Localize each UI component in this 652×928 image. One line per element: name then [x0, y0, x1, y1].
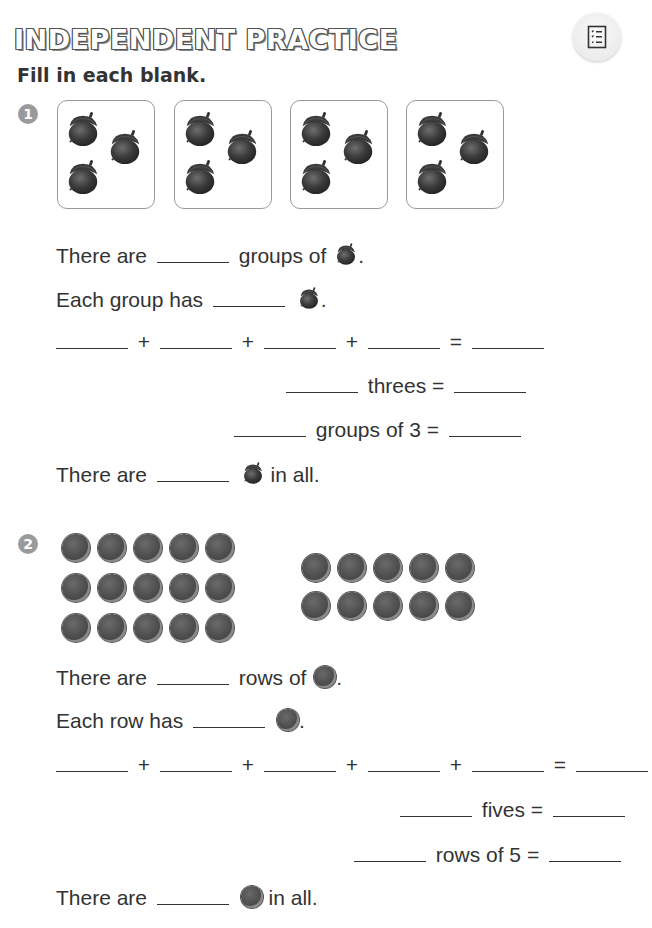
counter-dot-icon: [446, 592, 474, 620]
counter-dot-icon: [98, 534, 126, 562]
p2-each-row-blank[interactable]: [193, 726, 265, 728]
acorn-group-4: [406, 100, 504, 209]
p1-each-group-sentence: Each group has .: [56, 286, 327, 312]
acorn-icon: [455, 127, 493, 167]
acorn-icon: [106, 127, 144, 167]
acorn-icon: [223, 127, 261, 167]
p2-rows-sentence: There are rows of .: [56, 666, 342, 690]
p1-addend-blank-1[interactable]: [56, 347, 128, 349]
instruction-text: Fill in each blank.: [17, 64, 206, 86]
counter-dot-icon: [302, 554, 330, 582]
counter-dot-icon: [446, 554, 474, 582]
counter-dot-icon: [374, 554, 402, 582]
counter-dot-icon: [134, 614, 162, 642]
p1-in-all-sentence: There are in all.: [56, 461, 320, 487]
p2-fives-sentence: fives =: [396, 798, 629, 822]
p2-fives-total-blank[interactable]: [553, 815, 625, 817]
acorn-group-2: [174, 100, 272, 209]
counter-dot-icon: [170, 614, 198, 642]
p1-groups-sentence: There are groups of .: [56, 242, 364, 268]
acorn-group-3: [290, 100, 388, 209]
counter-dot-icon: [302, 592, 330, 620]
counter-dot-icon: [314, 666, 336, 688]
p2-addend-blank-3[interactable]: [264, 770, 336, 772]
p1-groups-of-3-total-blank[interactable]: [449, 435, 521, 437]
counter-dot-icon: [410, 554, 438, 582]
p1-threes-total-blank[interactable]: [454, 391, 526, 393]
p2-addition-sentence: + + + + =: [52, 753, 652, 777]
counter-dot-icon: [98, 574, 126, 602]
p2-rows-blank[interactable]: [157, 683, 229, 685]
acorn-icon: [413, 109, 451, 149]
problem-2-number: 2: [18, 534, 38, 554]
counter-dot-icon: [338, 592, 366, 620]
p2-addend-blank-1[interactable]: [56, 770, 128, 772]
acorn-icon: [64, 157, 102, 197]
p1-groups-of-3-count-blank[interactable]: [234, 435, 306, 437]
acorn-icon: [339, 127, 377, 167]
p2-addend-blank-2[interactable]: [160, 770, 232, 772]
acorn-group-1: [57, 100, 155, 209]
counter-dot-icon: [98, 614, 126, 642]
checklist-icon: [587, 25, 607, 49]
counter-array-3x5: [60, 532, 240, 644]
checklist-menu-button[interactable]: [573, 13, 621, 61]
p1-threes-sentence: threes =: [282, 374, 530, 398]
page-title: INDEPENDENT PRACTICE: [14, 24, 398, 55]
p2-rows-of-5-total-blank[interactable]: [549, 860, 621, 862]
counter-dot-icon: [410, 592, 438, 620]
p1-in-all-blank[interactable]: [157, 480, 229, 482]
counter-dot-icon: [206, 614, 234, 642]
p1-groups-of-3-sentence: groups of 3 =: [230, 418, 525, 442]
counter-dot-icon: [206, 574, 234, 602]
counter-dot-icon: [62, 534, 90, 562]
p2-in-all-sentence: There are in all.: [56, 886, 318, 910]
p1-groups-blank[interactable]: [157, 261, 229, 263]
problem-1-number: 1: [18, 104, 38, 124]
p2-rows-of-5-sentence: rows of 5 =: [350, 843, 625, 867]
counter-dot-icon: [338, 554, 366, 582]
p2-sum-blank[interactable]: [576, 770, 648, 772]
acorn-icon: [241, 461, 265, 485]
counter-dot-icon: [62, 614, 90, 642]
acorn-icon: [297, 286, 321, 310]
p2-addend-blank-4[interactable]: [368, 770, 440, 772]
p2-each-row-sentence: Each row has .: [56, 709, 305, 733]
acorn-icon: [297, 109, 335, 149]
counter-dot-icon: [134, 534, 162, 562]
p1-addend-blank-4[interactable]: [368, 347, 440, 349]
counter-dot-icon: [374, 592, 402, 620]
p2-in-all-blank[interactable]: [157, 903, 229, 905]
p2-fives-count-blank[interactable]: [400, 815, 472, 817]
counter-dot-icon: [62, 574, 90, 602]
acorn-icon: [181, 157, 219, 197]
counter-dot-icon: [170, 574, 198, 602]
acorn-icon: [297, 157, 335, 197]
p2-addend-blank-5[interactable]: [472, 770, 544, 772]
acorn-icon: [334, 242, 358, 266]
counter-dot-icon: [170, 534, 198, 562]
counter-dot-icon: [134, 574, 162, 602]
p1-sum-blank[interactable]: [472, 347, 544, 349]
counter-array-2x5: [300, 552, 480, 624]
p2-rows-of-5-count-blank[interactable]: [354, 860, 426, 862]
p1-threes-count-blank[interactable]: [286, 391, 358, 393]
counter-dot-icon: [277, 709, 299, 731]
p1-each-group-blank[interactable]: [213, 305, 285, 307]
counter-dot-icon: [206, 534, 234, 562]
p1-addend-blank-2[interactable]: [160, 347, 232, 349]
counter-dot-icon: [241, 886, 263, 908]
acorn-icon: [64, 109, 102, 149]
acorn-icon: [413, 157, 451, 197]
p1-addend-blank-3[interactable]: [264, 347, 336, 349]
p1-addition-sentence: + + + =: [52, 330, 548, 354]
acorn-icon: [181, 109, 219, 149]
